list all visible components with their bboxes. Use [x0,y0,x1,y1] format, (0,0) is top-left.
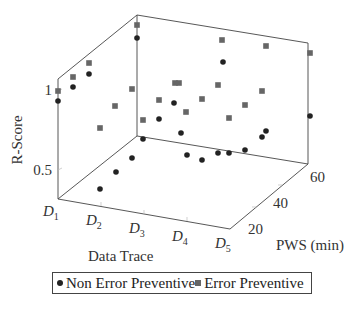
data-point [134,35,140,41]
z-tick-label: 1 [45,82,53,98]
z-axis-label: R-Score [9,115,25,164]
legend-label: Error Preventive [204,275,304,292]
legend-label: Non Error Preventive [66,275,195,292]
data-point [215,82,221,88]
data-point [129,155,135,161]
data-point [140,117,146,123]
x-tick-label-d5: D5 [214,235,231,254]
data-point [112,103,118,109]
back-bottom-edge [137,136,308,164]
x-tick-label-d4: D4 [171,228,188,247]
data-point [97,125,103,131]
data-point [259,134,265,140]
data-point [70,84,76,90]
data-point [184,152,190,158]
data-point [113,169,119,175]
y-tick-label: 40 [273,195,288,211]
square-marker-icon [195,280,201,286]
tick-marks [58,89,282,221]
data-point [263,43,269,49]
top-left-edge [58,15,137,79]
data-point [97,186,103,192]
data-point [176,80,182,86]
data-point [220,59,226,65]
data-point [242,102,248,108]
data-point [242,147,248,153]
data-point [156,116,162,122]
x-tick-label-d1: D1 [42,203,59,222]
legend-item-non-error-preventive: Non Error Preventive [57,275,195,292]
data-point [226,150,232,156]
x-axis-label: Data Trace [88,248,154,264]
y-axis-line [230,164,308,229]
data-point [307,50,313,56]
legend-item-error-preventive: Error Preventive [195,275,304,292]
data-point [140,136,146,142]
data-point [199,157,205,163]
data-point [70,74,76,80]
data-point [129,86,135,92]
x-tick-label-d2: D2 [85,212,102,231]
data-point [156,97,162,103]
data-point [219,37,225,43]
data-point [183,109,189,115]
data-point [178,130,184,136]
axes-frame [58,15,308,229]
y-axis-label: PWS (min) [276,237,344,254]
legend: Non Error Preventive Error Preventive [52,272,312,294]
y-tick-label: 60 [310,169,325,185]
data-point [215,150,221,156]
data-point [55,98,61,104]
circle-marker-icon [57,280,63,286]
data-point [226,115,232,121]
y-tick-label: 20 [248,221,263,237]
data-point [171,100,177,106]
x-tick-label-d3: D3 [128,220,145,239]
error-preventive-series [55,22,313,131]
data-point [55,88,61,94]
scatter-3d-chart: 1 0.5 R-Score D1 D2 D3 D4 D5 Data Trace … [0,0,356,270]
data-point [134,22,140,28]
data-point [86,71,92,77]
data-point [307,113,313,119]
data-point [86,60,92,66]
data-point [199,96,205,102]
z-tick-label: 0.5 [33,162,52,178]
data-point [259,88,265,94]
data-point [263,128,269,134]
